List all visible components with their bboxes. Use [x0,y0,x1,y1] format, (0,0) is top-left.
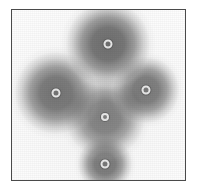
ring-marker-right [142,86,151,95]
ring-marker-left [52,89,61,98]
ring-marker-center [101,113,109,121]
ring-marker-bottom [101,160,110,169]
ring-marker-top [104,40,113,49]
micrograph-scan-field [12,10,185,180]
screenshot-root [0,0,203,196]
micrograph-frame [11,9,186,181]
